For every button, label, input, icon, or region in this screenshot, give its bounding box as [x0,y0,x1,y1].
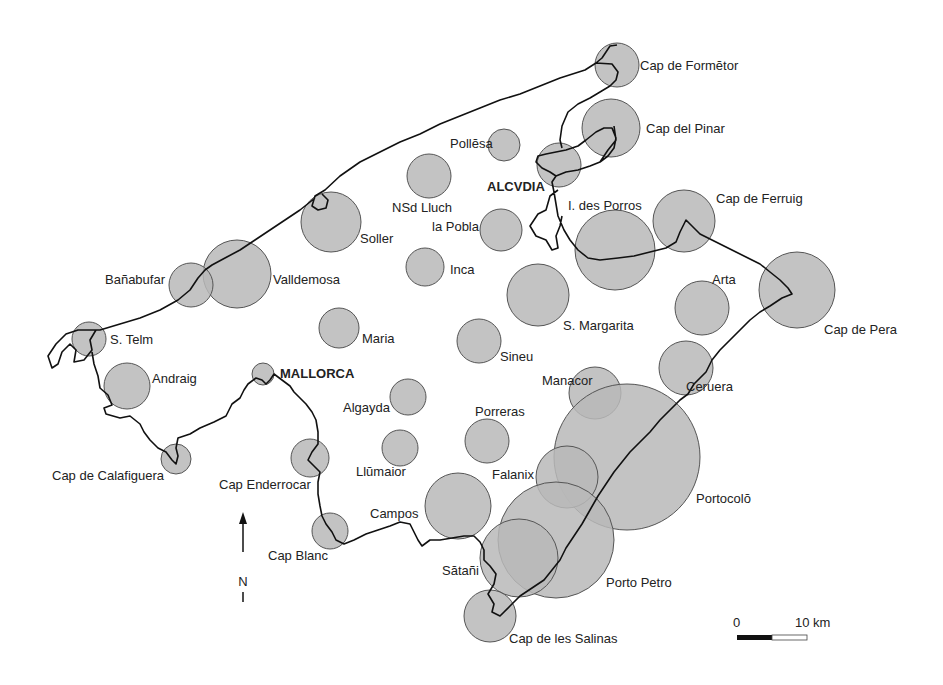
site-label: Maria [362,331,395,346]
site-label: S. Telm [110,332,153,347]
site-circle [488,129,520,161]
scale-bar: 0 10 km [733,615,830,640]
site-circle [653,190,715,252]
site-label: S. Margarita [563,318,635,333]
site-circle [406,248,444,286]
site-label: Falanix [492,467,534,482]
site-circle [759,252,835,328]
site-label: Pollĕsa [450,136,493,151]
site-label: Cap de Ferruig [716,191,803,206]
site-label: Bañabufar [105,272,166,287]
site-label: Ceruera [686,379,734,394]
site-label: Cap de Calafiguera [52,468,165,483]
site-label: Cap del Pinar [646,121,725,136]
site-label: I. des Porros [568,198,642,213]
scale-segment-light [772,635,807,640]
site-label: Porreras [475,404,525,419]
site-label: Inca [450,262,475,277]
scale-end-label: 10 km [795,615,830,630]
site-circle [480,209,522,251]
site-label: MALLORCA [280,366,355,381]
site-label: Manacor [542,373,593,388]
site-circle [465,419,509,463]
site-label: Valldemosa [273,272,341,287]
site-label: Arta [712,272,737,287]
site-label: ALCVDIA [487,179,545,194]
site-label: Sineu [500,349,533,364]
site-label: Portocolŏ [696,491,751,506]
site-label: NSd Lluch [392,200,452,215]
site-circle [382,430,418,466]
site-label: Cap Enderrocar [219,477,311,492]
north-arrow: N [238,512,247,602]
site-label: la Pobla [432,219,480,234]
site-label: Cap de les Salinas [509,631,618,646]
site-label: Cap de Formĕtor [640,58,739,73]
site-circle [507,264,569,326]
site-circle [319,308,359,348]
scale-segment-dark [737,635,772,640]
site-circle [457,319,501,363]
site-circle [575,210,655,290]
mallorca-map: N 0 10 km Cap de FormĕtorCap del PinarPo… [0,0,943,685]
site-label: Cap de Pera [824,322,898,337]
site-label: Sătañi [442,563,479,578]
site-label: Porto Petro [606,575,672,590]
site-label: Andraig [152,371,197,386]
site-label: Llŭmaior [356,464,407,479]
scale-start-label: 0 [733,615,740,630]
north-arrow-head-icon [239,512,247,524]
site-circle [425,473,491,539]
north-label: N [238,574,247,589]
site-label: Campos [370,506,419,521]
site-circle [480,519,558,597]
site-label: Algayda [343,400,391,415]
site-circle [675,281,729,335]
site-circle [291,439,329,477]
site-circle [72,322,106,356]
site-label: Cap Blanc [268,548,328,563]
site-circle [407,154,451,198]
site-circle [203,240,271,308]
site-circle [595,43,639,87]
site-circle [390,379,426,415]
site-label: Soller [360,231,394,246]
